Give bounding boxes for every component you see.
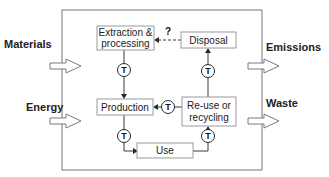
output-label-emissions: Emissions — [266, 41, 321, 53]
transport-symbol: T — [121, 131, 127, 141]
transport-icon-reuse-production: T — [162, 101, 175, 114]
node-disposal: Disposal — [181, 32, 236, 48]
node-reuse-line2: recycling — [189, 112, 228, 123]
input-arrow-energy — [50, 114, 81, 128]
lifecycle-diagram: Materials Energy Emissions Waste ? Extra… — [0, 0, 329, 177]
node-reuse-line1: Re-use or — [187, 100, 232, 111]
input-arrow-materials — [50, 59, 81, 73]
arrowhead — [121, 94, 127, 99]
transport-symbol: T — [205, 66, 211, 76]
node-use: Use — [137, 143, 193, 158]
unknown-link-label: ? — [165, 26, 171, 37]
arrowhead — [153, 104, 158, 110]
transport-symbol: T — [165, 102, 171, 112]
transport-icon-extraction-production: T — [118, 64, 131, 77]
transport-symbol: T — [121, 65, 127, 75]
output-label-waste: Waste — [266, 97, 298, 109]
transport-icon-use-reuse: T — [202, 130, 215, 143]
output-arrow-emissions — [248, 59, 279, 73]
node-extraction-line2: processing — [101, 38, 149, 49]
node-production-label: Production — [101, 102, 149, 113]
transport-icon-production-use: T — [118, 130, 131, 143]
node-disposal-label: Disposal — [189, 35, 227, 46]
node-extraction: Extraction & processing — [97, 26, 154, 50]
arrowhead — [154, 37, 159, 43]
node-use-label: Use — [156, 145, 174, 156]
transport-icon-reuse-disposal: T — [202, 65, 215, 78]
arrowhead — [205, 48, 211, 53]
transport-symbol: T — [205, 131, 211, 141]
node-reuse: Re-use or recycling — [182, 97, 236, 126]
input-label-materials: Materials — [4, 38, 52, 50]
input-label-energy: Energy — [26, 101, 64, 113]
node-extraction-line1: Extraction & — [99, 27, 153, 38]
node-production: Production — [97, 99, 153, 115]
output-arrow-waste — [248, 114, 279, 128]
